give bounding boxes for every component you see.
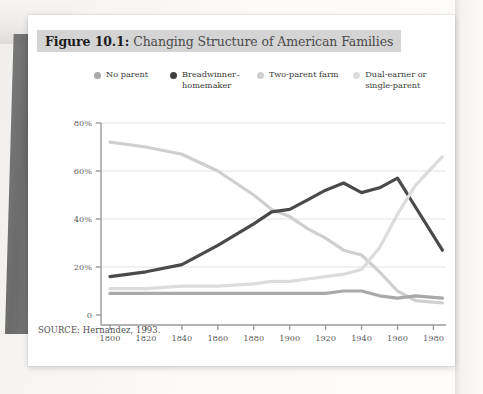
grid-lines bbox=[101, 123, 446, 267]
figure-number: Figure 10.1: bbox=[45, 34, 129, 49]
legend-marker-icon bbox=[353, 72, 360, 79]
legend-label: Breadwinner– homemaker bbox=[182, 69, 240, 90]
data-series-line bbox=[110, 178, 442, 276]
y-axis: 020%40%60%80% bbox=[74, 118, 101, 325]
chart-legend: No parentBreadwinner– homemakerTwo-paren… bbox=[94, 69, 444, 90]
source-note: SOURCE: Hernandez, 1993. bbox=[38, 325, 160, 335]
legend-label: Two-parent farm bbox=[269, 69, 339, 80]
x-axis-tick-label: 1960 bbox=[387, 333, 408, 341]
y-axis-tick-label: 60% bbox=[74, 166, 92, 176]
data-series-line bbox=[110, 291, 442, 298]
figure-card: Figure 10.1: Changing Structure of Ameri… bbox=[28, 15, 455, 366]
x-axis-tick-label: 1940 bbox=[351, 333, 372, 341]
x-axis-tick-label: 1900 bbox=[279, 333, 300, 341]
legend-label: Dual-earner or single-parent bbox=[365, 69, 426, 90]
line-chart-svg: 020%40%60%80% 18001820184018601880190019… bbox=[28, 101, 455, 341]
data-series bbox=[110, 142, 442, 303]
legend-marker-icon bbox=[170, 72, 177, 79]
y-axis-tick-label: 20% bbox=[74, 262, 92, 272]
legend-marker-icon bbox=[94, 72, 101, 79]
y-axis-tick-label: 40% bbox=[74, 214, 92, 224]
y-axis-tick-label: 80% bbox=[74, 118, 92, 128]
x-axis-tick-label: 1980 bbox=[423, 333, 444, 341]
legend-item: Two-parent farm bbox=[257, 69, 341, 80]
x-axis-tick-label: 1840 bbox=[171, 333, 192, 341]
legend-label: No parent bbox=[106, 69, 148, 80]
y-axis-tick-label: 0 bbox=[87, 310, 92, 320]
chart-plot-area: 020%40%60%80% 18001820184018601880190019… bbox=[28, 101, 455, 341]
x-axis-tick-label: 1880 bbox=[243, 333, 264, 341]
legend-item: Breadwinner– homemaker bbox=[170, 69, 245, 90]
legend-marker-icon bbox=[257, 72, 264, 79]
legend-item: No parent bbox=[94, 69, 158, 80]
figure-title-text: Changing Structure of American Families bbox=[133, 34, 393, 49]
figure-title: Figure 10.1: Changing Structure of Ameri… bbox=[37, 30, 401, 52]
x-axis-tick-label: 1860 bbox=[207, 333, 228, 341]
page-fold-right bbox=[455, 0, 483, 394]
legend-item: Dual-earner or single-parent bbox=[353, 69, 432, 90]
x-axis-tick-label: 1920 bbox=[315, 333, 336, 341]
